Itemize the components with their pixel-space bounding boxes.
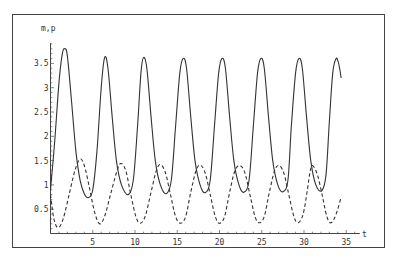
y-tick-label: 1 (44, 181, 49, 190)
x-tick-label: 25 (257, 238, 267, 247)
x-tick-label: 35 (341, 238, 351, 247)
x-tick-label: 15 (172, 238, 182, 247)
y-tick-label: 2 (44, 132, 49, 141)
y-tick-label: 3 (44, 84, 49, 93)
x-tick-label: 30 (299, 238, 309, 247)
x-tick-label: 10 (130, 238, 140, 247)
y-tick-label: 3.5 (34, 59, 49, 68)
x-tick-label: 20 (215, 238, 225, 247)
series-m-line (51, 49, 342, 198)
axes: 51015202530350.511.522.533.5 (34, 43, 360, 247)
line-chart: 51015202530350.511.522.533.5 m,p t (0, 0, 399, 261)
y-tick-label: 0.5 (34, 205, 49, 214)
y-tick-label: 1.5 (34, 157, 49, 166)
y-tick-label: 2.5 (34, 108, 49, 117)
series (51, 49, 342, 228)
x-tick-label: 5 (90, 238, 95, 247)
y-axis-label: m,p (41, 24, 56, 33)
x-axis-label: t (362, 230, 367, 239)
